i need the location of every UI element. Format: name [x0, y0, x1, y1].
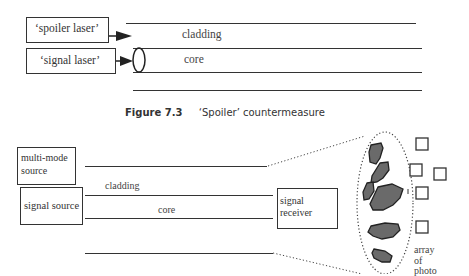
beam-upper-dotted-line — [268, 136, 365, 166]
speckle-blob-5 — [368, 223, 400, 239]
photodetector-square-2 — [410, 164, 422, 176]
photodetector-array — [410, 138, 446, 233]
photodetector-square-5 — [416, 221, 428, 233]
speckle-blob-3 — [363, 182, 374, 200]
speckle-blob-1 — [369, 143, 383, 164]
beam-lower-dotted-line — [273, 253, 362, 274]
speckle-blob-2 — [371, 162, 389, 183]
speckle-blobs — [363, 143, 403, 262]
speckle-blob-4 — [370, 184, 403, 210]
speckle-blob-6 — [372, 249, 392, 262]
photodetector-square-1 — [416, 138, 428, 150]
photodetector-square-4 — [416, 187, 428, 199]
photodetector-square-3 — [434, 168, 446, 180]
